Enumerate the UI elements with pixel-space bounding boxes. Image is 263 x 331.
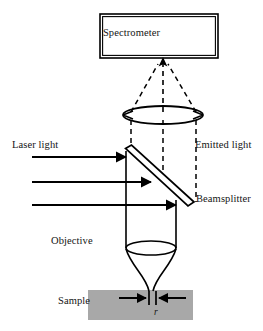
radius-label: r: [146, 308, 166, 318]
figure-root: Spectrometer Laser light Emitted light B…: [0, 0, 263, 331]
sample-label: Sample: [58, 296, 90, 307]
sample-block: [88, 290, 193, 320]
laser-light-label: Laser light: [12, 140, 58, 151]
objective-lens: [126, 241, 176, 255]
laser-light-rays: [32, 157, 176, 205]
optical-diagram: [0, 0, 263, 331]
objective-label: Objective: [51, 236, 93, 247]
beamsplitter-label: Beamsplitter: [196, 194, 251, 205]
emitted-light-label: Emitted light: [195, 140, 251, 151]
beamsplitter: [126, 145, 195, 206]
spectrometer-label: Spectrometer: [0, 28, 263, 39]
